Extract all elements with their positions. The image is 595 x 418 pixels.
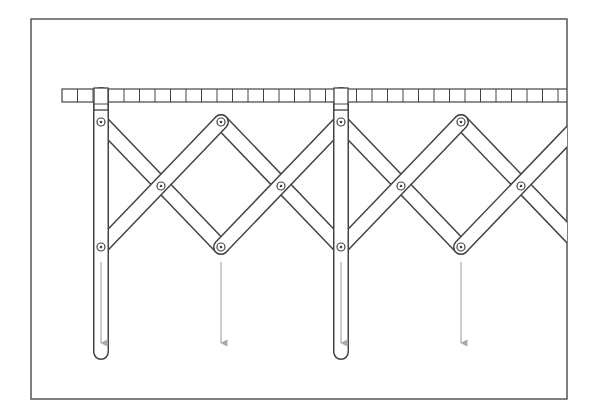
pivot-pin-icon	[337, 118, 345, 126]
pivots	[97, 118, 525, 251]
pivot-pin-icon	[517, 182, 525, 190]
pivot-pin-icon	[97, 243, 105, 251]
pivot-pin-icon	[157, 182, 165, 190]
scissor-mechanism-diagram	[0, 0, 595, 418]
pivot-pin-icon	[337, 243, 345, 251]
pivot-pin-icon	[217, 118, 225, 126]
pivot-pin-icon	[277, 182, 285, 190]
rail-body	[62, 89, 567, 102]
pivot-pin-icon	[457, 118, 465, 126]
pivot-pin-icon	[397, 182, 405, 190]
pivot-pin-icon	[457, 243, 465, 251]
load-arrows	[101, 262, 461, 343]
pivot-pin-icon	[97, 118, 105, 126]
slider-block	[94, 88, 108, 110]
pivot-pin-icon	[217, 243, 225, 251]
slider-block	[334, 88, 348, 110]
rail	[62, 89, 567, 102]
